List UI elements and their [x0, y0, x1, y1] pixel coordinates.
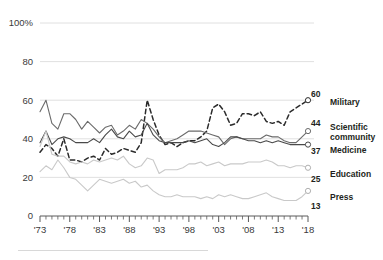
- x-axis-label-y93: '93: [153, 224, 165, 235]
- series-line-scientific-community: [40, 100, 308, 144]
- x-axis-label-y13: '13: [272, 224, 284, 235]
- x-axis-label-y08: '08: [242, 224, 254, 235]
- series-endpoint-scientific-community: [305, 128, 310, 133]
- y-axis-label-20: 20: [22, 172, 33, 183]
- y-axis-label-0: 0: [28, 210, 33, 221]
- series-line-press: [40, 160, 308, 201]
- series-endpoint-education: [305, 165, 310, 170]
- series-line-education: [40, 131, 308, 173]
- y-axis-label-80: 80: [22, 56, 33, 67]
- x-axis-label-y88: '88: [123, 224, 135, 235]
- x-axis-label-y83: '83: [93, 224, 105, 235]
- legend-label-military: Military: [330, 97, 360, 107]
- x-axis-label-y18: '18: [302, 224, 314, 235]
- legend-label-medicine: Medicine: [330, 145, 367, 155]
- chart-canvas: 100%806040200'73'78'83'88'93'98'03'08'13…: [0, 0, 383, 260]
- y-axis-label-100: 100%: [9, 17, 34, 28]
- legend-label-scientific-community: Scientificcommunity: [330, 122, 376, 142]
- end-value-scientific-community: 44: [311, 118, 321, 128]
- end-value-education: 25: [311, 174, 321, 184]
- end-value-medicine: 37: [311, 146, 321, 156]
- end-value-military: 60: [311, 89, 321, 99]
- x-axis-label-y78: '78: [64, 224, 76, 235]
- legend-label-press: Press: [330, 192, 353, 202]
- series-endpoint-press: [305, 188, 310, 193]
- end-value-press: 13: [311, 201, 321, 211]
- legend-label-education: Education: [330, 169, 371, 179]
- line-chart: 100%806040200'73'78'83'88'93'98'03'08'13…: [0, 0, 383, 260]
- x-axis-label-y98: '98: [183, 224, 195, 235]
- x-axis-label-y73: '73: [34, 224, 46, 235]
- series-endpoint-medicine: [305, 142, 310, 147]
- y-axis-label-40: 40: [22, 133, 33, 144]
- series-line-military: [40, 100, 308, 162]
- x-axis-label-y03: '03: [212, 224, 224, 235]
- series-endpoint-military: [305, 98, 310, 103]
- footer-divider: [18, 250, 208, 251]
- y-axis-label-60: 60: [22, 95, 33, 106]
